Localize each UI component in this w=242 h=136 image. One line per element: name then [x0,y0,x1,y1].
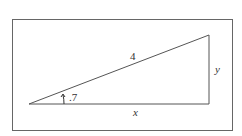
hypotenuse-line [29,35,209,104]
hypotenuse-label: 4 [130,50,136,62]
frame-border [13,20,233,131]
angle-arrow-icon [61,94,65,104]
right-triangle [29,35,209,104]
angle-label: .7 [69,91,78,103]
diagram-canvas: .7 4 y x [0,0,242,136]
opposite-label: y [214,63,220,75]
adjacent-label: x [132,106,138,118]
